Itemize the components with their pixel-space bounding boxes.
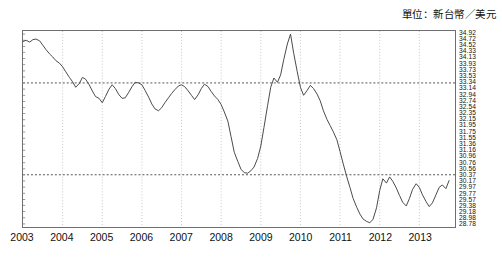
x-tick-label: 2010 <box>289 231 312 243</box>
x-tick-label: 2003 <box>10 231 33 243</box>
x-tick-label: 2008 <box>209 231 232 243</box>
x-tick-label: 2009 <box>249 231 272 243</box>
x-tick-label: 2007 <box>170 231 193 243</box>
x-tick-label: 2005 <box>90 231 113 243</box>
x-tick-label: 2006 <box>130 231 153 243</box>
x-axis-tick-labels: 2003200420052006200720082009201020112012… <box>0 0 502 257</box>
x-tick-label: 2011 <box>329 231 352 243</box>
x-tick-label: 2004 <box>50 231 73 243</box>
x-tick-label: 2012 <box>369 231 392 243</box>
x-tick-label: 2013 <box>408 231 431 243</box>
